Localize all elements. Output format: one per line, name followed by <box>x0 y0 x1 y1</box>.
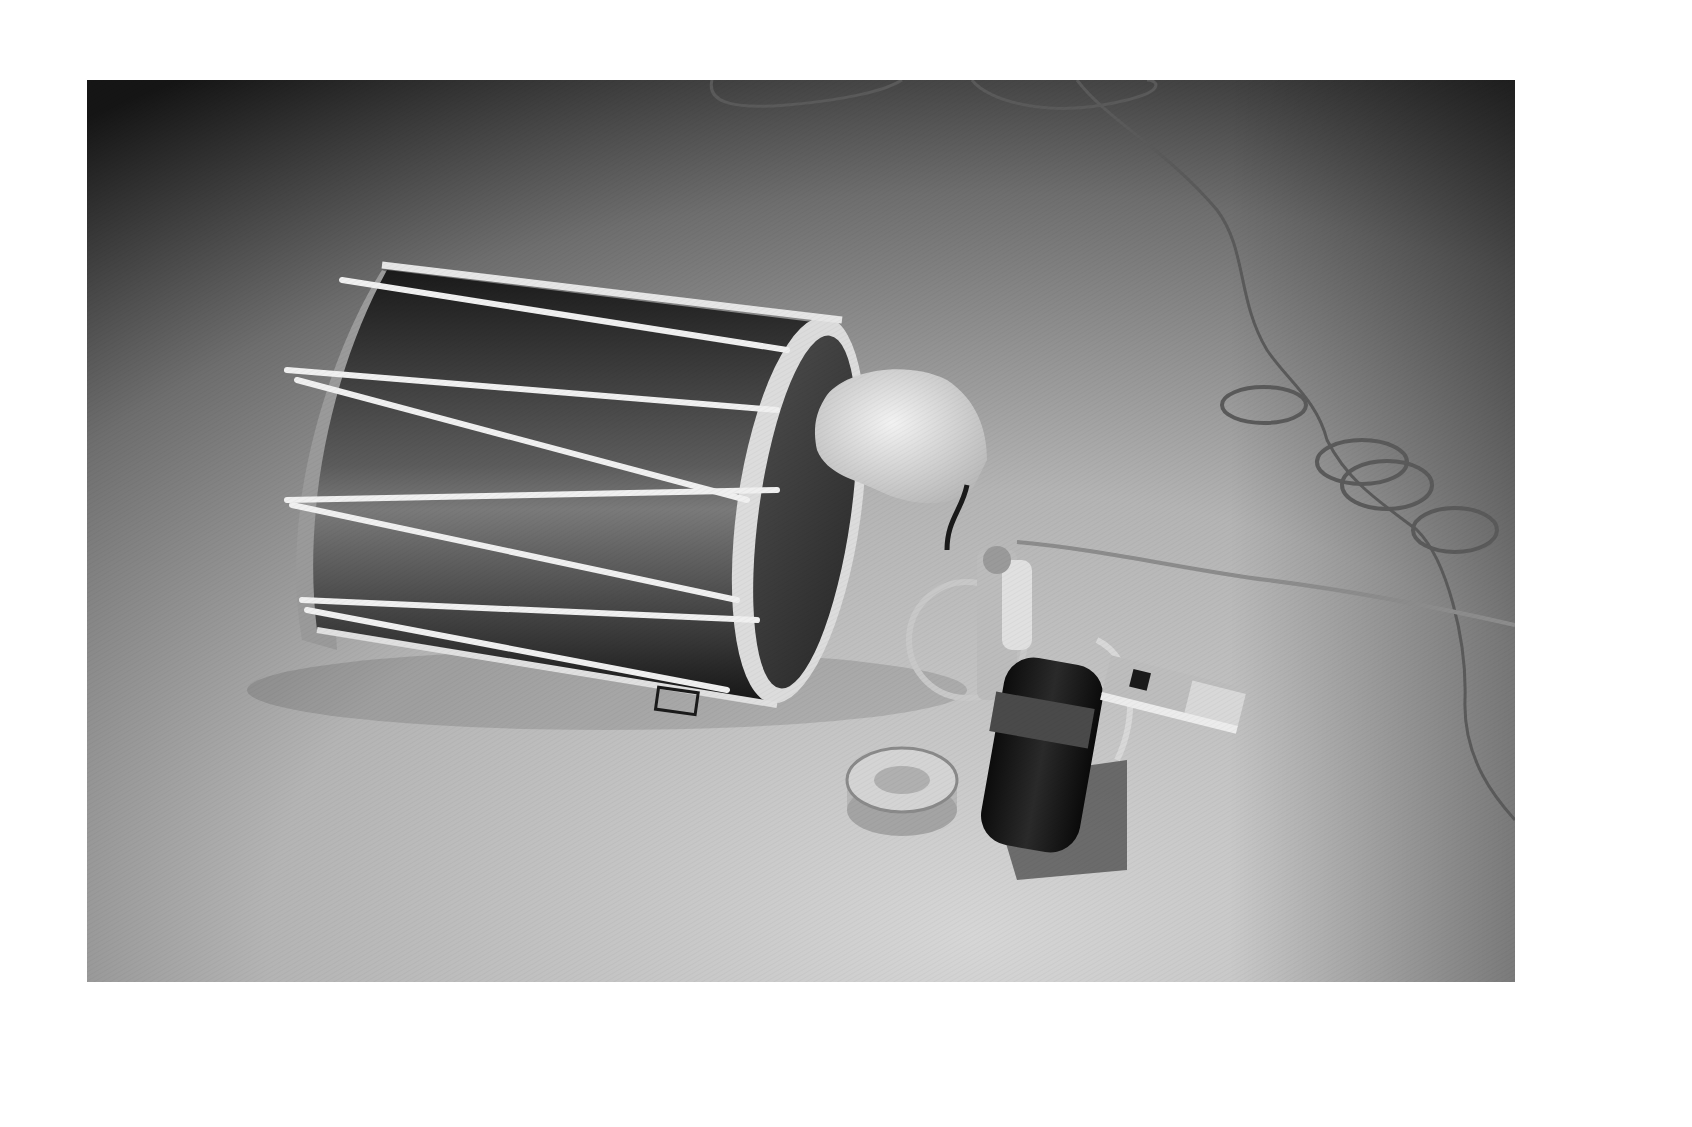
photo-illustration <box>87 80 1515 982</box>
photograph <box>87 80 1515 982</box>
